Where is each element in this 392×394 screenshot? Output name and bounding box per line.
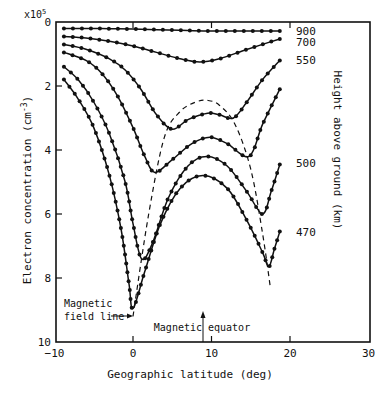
data-point [174, 191, 178, 195]
data-point [87, 115, 91, 119]
data-point [210, 59, 214, 63]
data-point [134, 300, 138, 304]
data-point [152, 28, 156, 32]
data-point [184, 167, 188, 171]
data-point [130, 217, 134, 221]
data-point [240, 182, 244, 186]
data-point [71, 53, 75, 57]
data-point [120, 103, 124, 107]
data-point [143, 256, 147, 260]
data-point [197, 29, 201, 33]
data-point [185, 145, 189, 149]
data-point [100, 114, 104, 118]
data-point [267, 197, 271, 201]
data-point [236, 51, 240, 55]
data-point [278, 162, 282, 166]
data-point [146, 100, 150, 104]
data-point [272, 180, 276, 184]
data-point [142, 152, 146, 156]
data-point [227, 54, 231, 58]
data-point [71, 44, 75, 48]
svg-text:Magnetic: Magnetic [64, 298, 112, 309]
data-point [262, 120, 266, 124]
data-point [119, 65, 123, 69]
data-point [275, 171, 279, 175]
data-point [250, 93, 254, 97]
data-point [139, 283, 143, 287]
data-point [264, 258, 268, 262]
data-point [141, 47, 145, 51]
data-point [124, 42, 128, 46]
data-point [88, 49, 92, 53]
data-point [266, 71, 270, 75]
data-point [188, 29, 192, 33]
data-point [260, 29, 264, 33]
data-point [107, 174, 111, 178]
data-point [81, 84, 85, 88]
data-point [223, 162, 227, 166]
data-point [97, 139, 101, 143]
data-point [192, 115, 196, 119]
data-point [249, 153, 253, 157]
data-point [272, 247, 276, 251]
data-point [269, 40, 273, 44]
data-point [138, 144, 142, 148]
data-point [165, 163, 169, 167]
height-label: 700 [296, 36, 316, 49]
data-point [124, 111, 128, 115]
data-point [169, 190, 173, 194]
data-point [69, 71, 73, 75]
x-tick-label: 0 [130, 347, 137, 360]
annotation-field-line: Magnetic field line [64, 298, 133, 322]
data-point [215, 157, 219, 161]
data-point [98, 27, 102, 31]
data-point [177, 125, 181, 129]
data-point [62, 26, 66, 30]
data-point [116, 156, 120, 160]
data-point [120, 235, 124, 239]
arrow-up-icon [201, 311, 206, 318]
data-point [71, 26, 75, 30]
data-point [119, 226, 123, 230]
data-point [260, 212, 264, 216]
data-point [231, 194, 235, 198]
data-point [125, 270, 129, 274]
data-point [256, 137, 260, 141]
data-point [171, 157, 175, 161]
data-point [184, 58, 188, 62]
data-point [249, 226, 253, 230]
data-point [88, 37, 92, 41]
data-point [206, 154, 210, 158]
data-point [94, 131, 98, 135]
data-point [195, 175, 199, 179]
data-point [149, 49, 153, 53]
data-point [95, 106, 99, 110]
data-point [144, 266, 148, 270]
data-point [272, 65, 276, 69]
data-point [94, 66, 98, 70]
data-point [233, 29, 237, 33]
y-tick-label: 4 [44, 144, 51, 157]
data-point [190, 160, 194, 164]
data-point [175, 56, 179, 60]
data-point [113, 148, 117, 152]
y-axis-label: Electron concentration (cm-3) [20, 96, 34, 284]
data-point [270, 103, 274, 107]
curve-series [62, 42, 282, 130]
data-point [226, 142, 230, 146]
data-point [112, 191, 116, 195]
data-point [161, 28, 165, 32]
data-point [161, 215, 165, 219]
data-point [261, 42, 265, 46]
data-point [143, 27, 147, 31]
data-point [135, 244, 139, 248]
curve-series [62, 50, 282, 172]
data-point [226, 116, 230, 120]
data-point [107, 131, 111, 135]
data-point [251, 29, 255, 33]
data-point [124, 261, 128, 265]
y-tick-label: 6 [44, 208, 51, 221]
data-point [236, 202, 240, 206]
data-point [265, 205, 269, 209]
data-point [104, 55, 108, 59]
